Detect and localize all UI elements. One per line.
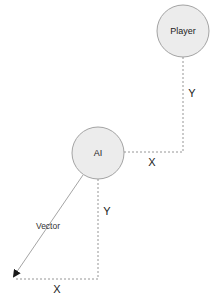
vector-diagram: Player AI Y X Vector Y X [0,0,215,301]
ai-node: AI [72,127,124,179]
lower-y-label: Y [103,205,111,217]
upper-y-label: Y [188,87,196,99]
ai-label: AI [94,148,103,158]
player-label: Player [170,26,196,36]
player-node: Player [157,5,209,57]
upper-x-label: X [148,156,156,168]
vector-label: Vector [36,221,60,231]
lower-x-label: X [53,283,61,295]
